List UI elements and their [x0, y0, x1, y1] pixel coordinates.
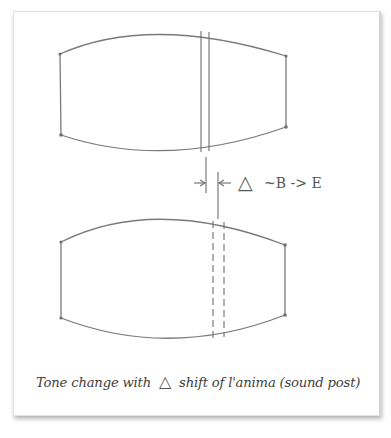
caption-delta-symbol: △: [159, 372, 171, 391]
diagram-caption: Tone change with △ shift of l'anima (sou…: [36, 372, 376, 391]
delta-annotation: △ ~B -> E: [194, 157, 322, 219]
annotation-relation: ~B -> E: [264, 175, 322, 191]
caption-part-2: shift of l'anima (sound post): [179, 375, 360, 390]
upper-lens: [58, 31, 287, 152]
delta-symbol: △: [238, 171, 253, 193]
lower-lens: [59, 219, 286, 338]
caption-part-1: Tone change with: [36, 375, 151, 390]
